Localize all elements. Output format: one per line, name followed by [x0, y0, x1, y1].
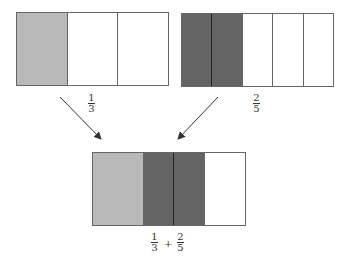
shaded-fifth: [144, 153, 174, 225]
numerator: 2: [177, 232, 183, 242]
arrow-left-icon: [60, 97, 101, 139]
sum-bar: [92, 152, 246, 226]
denominator: 5: [177, 243, 183, 253]
arrow-right-icon: [178, 97, 218, 139]
fraction-addition-diagram: 1 3 2 5 1 3 + 2: [0, 0, 347, 262]
sum-right-fraction: 2 5: [177, 232, 184, 253]
sum-left-fraction: 1 3: [151, 232, 158, 253]
shaded-fifth: [174, 153, 205, 225]
shaded-third: [93, 153, 144, 225]
denominator: 3: [151, 243, 157, 253]
plus-sign: +: [164, 238, 172, 249]
numerator: 1: [151, 232, 157, 242]
empty-remainder: [205, 153, 245, 225]
